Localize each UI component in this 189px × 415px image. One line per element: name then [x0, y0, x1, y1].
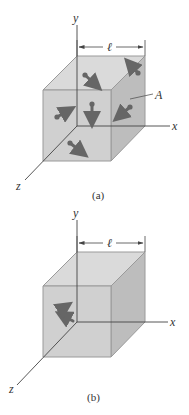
z-axis-label: z — [8, 382, 14, 396]
dimension-label: ℓ — [107, 40, 112, 54]
dimension-label: ℓ — [107, 236, 112, 250]
y-axis-label: y — [72, 206, 79, 220]
y-axis-label: y — [72, 11, 79, 25]
point-a-label: A — [154, 88, 163, 102]
caption-a: (a) — [92, 189, 105, 202]
caption-b: (b) — [87, 391, 100, 404]
z-axis-label: z — [15, 179, 21, 193]
figure-canvas: ℓ y x z A (a — [0, 0, 189, 415]
x-axis-label: x — [171, 119, 178, 133]
figure-b: ℓ y x z (b) — [8, 206, 176, 404]
figure-a: ℓ y x z A (a — [15, 11, 178, 202]
x-axis-label: x — [169, 315, 176, 329]
